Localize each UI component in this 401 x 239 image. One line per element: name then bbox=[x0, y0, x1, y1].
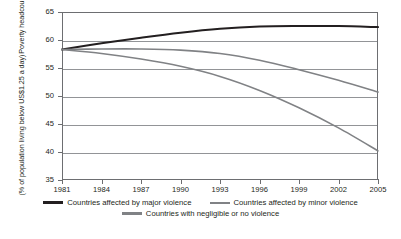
chart-legend: Countries affected by major violence Cou… bbox=[0, 199, 401, 217]
x-tick-label: 1990 bbox=[172, 186, 189, 194]
x-tick-mark bbox=[220, 180, 221, 184]
legend-item-minor-violence: Countries affected by minor violence bbox=[210, 199, 358, 207]
x-tick-mark bbox=[62, 180, 63, 184]
series-line bbox=[62, 26, 378, 50]
x-tick-mark bbox=[181, 180, 182, 184]
legend-label-no-violence: Countries with negligible or no violence bbox=[146, 210, 279, 218]
legend-swatch-minor-violence bbox=[210, 202, 230, 204]
legend-item-major-violence: Countries affected by major violence bbox=[43, 199, 191, 207]
legend-row-2: Countries with negligible or no violence bbox=[0, 210, 401, 218]
x-tick-label: 2002 bbox=[330, 186, 347, 194]
y-tick-label: 50 bbox=[36, 92, 54, 100]
x-tick-label: 1993 bbox=[212, 186, 229, 194]
x-tick-mark bbox=[339, 180, 340, 184]
series-line bbox=[62, 50, 378, 151]
x-tick-mark bbox=[299, 180, 300, 184]
x-tick-label: 1984 bbox=[93, 186, 110, 194]
x-tick-label: 1981 bbox=[54, 186, 71, 194]
y-axis-title-line-2: (% of population living below US$1.25 a … bbox=[18, 55, 25, 196]
y-tick-label: 35 bbox=[36, 176, 54, 184]
x-tick-label: 2005 bbox=[370, 186, 387, 194]
legend-row-1: Countries affected by major violence Cou… bbox=[0, 199, 401, 207]
x-tick-mark bbox=[260, 180, 261, 184]
x-tick-label: 1987 bbox=[133, 186, 150, 194]
y-tick-label: 40 bbox=[36, 148, 54, 156]
poverty-headcount-line-chart: Poverty headcount (% of population livin… bbox=[0, 0, 401, 239]
x-tick-mark bbox=[141, 180, 142, 184]
y-axis-title-line-1: Poverty headcount bbox=[18, 0, 25, 54]
y-tick-label: 45 bbox=[36, 120, 54, 128]
x-tick-mark bbox=[378, 180, 379, 184]
x-tick-mark bbox=[102, 180, 103, 184]
legend-swatch-major-violence bbox=[43, 201, 63, 204]
x-tick-label: 1996 bbox=[251, 186, 268, 194]
legend-label-major-violence: Countries affected by major violence bbox=[67, 199, 191, 207]
y-tick-label: 55 bbox=[36, 64, 54, 72]
y-tick-label: 65 bbox=[36, 8, 54, 16]
series-line bbox=[62, 49, 378, 92]
legend-label-minor-violence: Countries affected by minor violence bbox=[234, 199, 358, 207]
series-layer bbox=[62, 12, 378, 180]
y-tick-label: 60 bbox=[36, 36, 54, 44]
legend-swatch-no-violence bbox=[122, 212, 142, 214]
x-tick-label: 1999 bbox=[291, 186, 308, 194]
legend-item-no-violence: Countries with negligible or no violence bbox=[122, 210, 279, 218]
